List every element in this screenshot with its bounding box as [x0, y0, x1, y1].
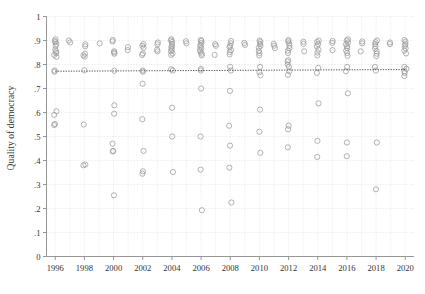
data-point — [110, 141, 115, 146]
data-point — [212, 52, 217, 57]
data-point — [315, 154, 320, 159]
x-axis-tick-label: 2014 — [309, 263, 327, 273]
data-point — [199, 208, 204, 213]
tick-label-layer: 0.1.2.3.4.5.6.7.8.9119961998200020022004… — [34, 12, 414, 273]
data-point — [374, 140, 379, 145]
data-point — [285, 72, 290, 77]
data-point — [227, 123, 232, 128]
data-point — [229, 200, 234, 205]
data-point — [372, 64, 377, 69]
x-axis-tick-label: 2002 — [134, 263, 151, 273]
data-point — [81, 122, 86, 127]
y-axis-tick-label: .7 — [34, 84, 41, 94]
data-point — [402, 73, 407, 78]
data-point — [302, 49, 307, 54]
data-point — [227, 165, 232, 170]
y-axis-tick-label: .9 — [34, 36, 40, 46]
y-axis-tick-label: .6 — [34, 108, 41, 118]
data-point — [257, 64, 262, 69]
data-point — [358, 49, 363, 54]
data-point — [97, 41, 102, 46]
x-axis-tick-label: 1996 — [47, 263, 65, 273]
y-axis-tick-label: .1 — [34, 228, 40, 238]
x-axis-tick-label: 2004 — [163, 263, 181, 273]
x-axis-tick-label: 2008 — [222, 263, 239, 273]
data-point — [81, 163, 86, 168]
x-axis-tick-label: 1998 — [76, 263, 93, 273]
y-axis-tick-label: .8 — [34, 60, 40, 70]
x-axis-tick-label: 2020 — [397, 263, 414, 273]
data-point — [227, 88, 232, 93]
y-axis-tick-label: 1 — [36, 12, 40, 22]
data-point — [257, 107, 262, 112]
data-point — [285, 145, 290, 150]
y-axis-tick-label: .5 — [34, 132, 40, 142]
y-axis-tick-label: 0 — [36, 252, 40, 262]
scatter-plot-canvas: 0.1.2.3.4.5.6.7.8.9119961998200020022004… — [0, 0, 425, 294]
data-point — [258, 150, 263, 155]
y-axis-tick-label: .3 — [34, 180, 40, 190]
data-point — [169, 52, 174, 57]
data-point — [112, 111, 117, 116]
y-axis-tick-label: .2 — [34, 204, 40, 214]
data-point — [316, 101, 321, 106]
x-axis-tick-label: 2000 — [105, 263, 122, 273]
data-point — [52, 68, 57, 73]
x-axis-tick-label: 2016 — [338, 263, 356, 273]
data-point — [315, 138, 320, 143]
data-point — [141, 148, 146, 153]
data-point — [170, 169, 175, 174]
y-axis-tick-label: .4 — [34, 156, 41, 166]
x-axis-tick-label: 2018 — [367, 263, 384, 273]
chart-figure: Quality of democracy 0.1.2.3.4.5.6.7.8.9… — [0, 0, 425, 294]
data-point — [139, 52, 144, 57]
x-axis-tick-label: 2010 — [251, 263, 268, 273]
data-point — [112, 103, 117, 108]
x-axis-tick-label: 2006 — [192, 263, 210, 273]
data-point — [314, 70, 319, 75]
data-point — [345, 91, 350, 96]
data-point — [285, 127, 290, 132]
data-point — [140, 117, 145, 122]
data-point — [258, 73, 263, 78]
data-point — [198, 167, 203, 172]
x-axis-tick-label: 2012 — [280, 263, 297, 273]
data-point — [111, 193, 116, 198]
